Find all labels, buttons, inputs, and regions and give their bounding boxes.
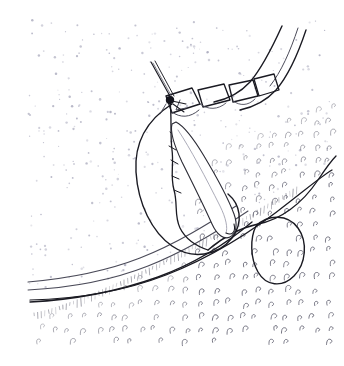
stipple-dot <box>193 45 195 47</box>
stipple-dot <box>31 215 32 216</box>
stipple-dot <box>138 222 140 224</box>
stipple-dot <box>131 70 132 71</box>
stipple-dot <box>257 101 259 103</box>
stipple-dot <box>206 51 208 53</box>
stipple-dot <box>129 131 132 134</box>
stipple-dot <box>240 73 242 75</box>
stipple-dot <box>254 148 256 150</box>
stipple-dot <box>249 35 251 37</box>
stipple-dot <box>264 199 266 201</box>
stipple-dot <box>315 20 316 21</box>
stipple-dot <box>208 59 211 62</box>
stipple-dot <box>29 95 31 97</box>
stipple-dot <box>243 75 244 76</box>
stipple-dot <box>122 242 124 244</box>
stipple-dot <box>239 120 240 121</box>
stipple-dot <box>136 242 138 244</box>
suture-illustration <box>0 0 344 366</box>
stipple-dot <box>277 188 279 190</box>
stipple-dot <box>235 123 237 125</box>
stipple-dot <box>176 28 178 30</box>
stipple-dot <box>80 121 82 123</box>
stipple-dot <box>110 200 112 202</box>
stipple-dot <box>57 90 58 91</box>
stipple-dot <box>128 154 130 156</box>
stipple-dot <box>329 101 330 102</box>
stipple-dot <box>146 249 148 251</box>
stipple-dot <box>133 141 135 143</box>
stipple-dot <box>190 44 192 46</box>
stipple-dot <box>179 56 181 58</box>
stipple-dot <box>55 72 58 75</box>
stipple-dot <box>51 22 53 24</box>
stipple-dot <box>118 174 119 175</box>
stipple-dot <box>148 115 150 117</box>
stipple-dot <box>59 99 60 100</box>
stipple-dot <box>324 140 326 142</box>
stipple-dot <box>126 100 128 102</box>
stipple-dot <box>236 135 237 136</box>
stipple-dot <box>163 40 165 42</box>
stipple-dot <box>145 151 147 153</box>
stipple-dot <box>258 193 260 195</box>
stipple-dot <box>118 47 120 49</box>
stipple-dot <box>295 39 297 41</box>
stipple-dot <box>203 210 204 211</box>
stipple-dot <box>113 57 115 59</box>
stipple-dot <box>99 98 102 101</box>
stipple-dot <box>30 245 32 247</box>
stipple-dot <box>277 155 279 157</box>
stipple-dot <box>118 68 119 69</box>
stipple-dot <box>322 117 324 119</box>
stipple-dot <box>249 128 250 129</box>
stipple-dot <box>112 158 114 160</box>
stipple-dot <box>161 168 163 170</box>
figure-root <box>0 0 344 366</box>
stipple-dot <box>294 124 296 126</box>
stipple-dot <box>154 32 156 34</box>
stipple-dot <box>83 267 85 269</box>
stipple-dot <box>122 269 124 271</box>
stipple-dot <box>40 248 42 250</box>
stipple-dot <box>246 30 248 32</box>
stipple-dot <box>285 121 287 123</box>
stipple-dot <box>31 253 33 255</box>
stipple-dot <box>115 261 117 263</box>
stipple-dot <box>133 158 135 160</box>
stipple-dot <box>117 178 120 181</box>
stipple-dot <box>203 215 204 216</box>
stipple-dot <box>319 123 321 125</box>
stipple-dot <box>193 21 195 23</box>
stipple-dot <box>93 34 95 36</box>
stipple-dot <box>307 110 309 112</box>
stipple-dot <box>107 270 109 272</box>
stipple-dot <box>147 101 149 103</box>
stipple-dot <box>76 55 78 57</box>
stipple-dot <box>272 51 273 52</box>
stipple-dot <box>99 202 100 203</box>
stipple-dot <box>114 113 116 115</box>
stipple-dot <box>231 139 232 140</box>
stipple-dot <box>152 33 153 34</box>
stipple-dot <box>225 126 227 128</box>
stipple-dot <box>99 142 102 145</box>
stipple-dot <box>254 194 256 196</box>
stipple-dot <box>82 39 83 40</box>
stipple-dot <box>220 161 222 163</box>
stipple-dot <box>73 161 74 162</box>
stipple-dot <box>68 77 70 79</box>
stipple-dot <box>178 31 180 33</box>
stipple-dot <box>169 199 171 201</box>
stipple-dot <box>254 131 255 132</box>
stipple-dot <box>35 105 36 106</box>
stipple-dot <box>79 45 81 47</box>
stipple-dot <box>144 166 146 168</box>
stipple-dot <box>113 148 115 150</box>
stipple-dot <box>90 160 93 163</box>
stipple-dot <box>101 33 102 34</box>
stipple-dot <box>311 89 313 91</box>
stipple-dot <box>69 183 71 185</box>
stipple-dot <box>270 131 271 132</box>
stipple-dot <box>235 109 237 111</box>
stipple-dot <box>134 24 136 26</box>
